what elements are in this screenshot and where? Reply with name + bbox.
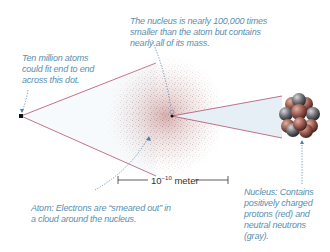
callout-line: Ten million atoms [22, 53, 94, 64]
atom-nucleus-point [171, 115, 174, 118]
callout-line: a cloud around the nucleus. [31, 214, 171, 225]
callout-line: across this dot. [22, 75, 94, 86]
scale-unit: meter [174, 175, 198, 186]
callout-line: nearly all of its mass. [130, 38, 267, 49]
nucleus-size-callout: The nucleus is nearly 100,000 times smal… [130, 16, 267, 49]
callout-line: neutral neutrons [244, 220, 314, 231]
callout-line: Nucleus: Contains [244, 187, 314, 198]
ten-million-atoms-callout: Ten million atoms could fit end to end a… [22, 53, 94, 86]
callout-line: positively charged [244, 198, 314, 209]
callout-line: protons (red) and [244, 209, 314, 220]
nucleus-icon [279, 93, 320, 138]
callout-line: Atom: Electrons are “smeared out” in [31, 203, 171, 214]
nucleus-callout: Nucleus: Contains positively charged pro… [244, 187, 314, 242]
atom-callout: Atom: Electrons are “smeared out” in a c… [31, 203, 171, 225]
callout-line: could fit end to end [22, 64, 94, 75]
period-dot [19, 114, 23, 118]
scale-bar-label: 10−10 meter [151, 175, 199, 186]
callout-line: smaller than the atom but contains [130, 27, 267, 38]
callout-line: The nucleus is nearly 100,000 times [130, 16, 267, 27]
scale-exponent: −10 [162, 175, 172, 181]
callout-line: (gray). [244, 231, 314, 242]
scale-base: 10 [151, 175, 162, 186]
